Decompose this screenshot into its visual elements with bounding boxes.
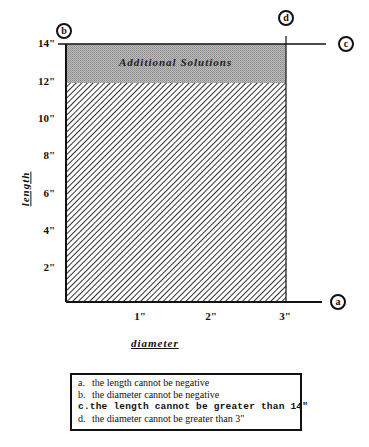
legend-key: d. (78, 413, 92, 425)
legend-item-d: d. the diameter cannot be greater than 3… (78, 413, 294, 425)
legend-key: a. (78, 377, 92, 389)
y-tick-12: 12" (25, 75, 55, 87)
y-tick-10: 10" (25, 112, 55, 124)
x-tick-2: 2" (196, 310, 226, 322)
legend-text: the length cannot be negative (92, 377, 209, 389)
legend-item-a: a. the length cannot be negative (78, 377, 294, 389)
legend-text: the diameter cannot be greater than 3" (92, 413, 244, 425)
y-tick-2: 2" (25, 261, 55, 273)
legend-key: b. (78, 389, 92, 401)
legend-text: the diameter cannot be negative (92, 389, 219, 401)
marker-c: c (338, 36, 354, 52)
additional-solutions-label: Additional Solutions (119, 56, 232, 68)
constraints-legend: a. the length cannot be negative b. the … (70, 373, 302, 431)
y-tick-4: 4" (25, 224, 55, 236)
legend-text: the length cannot be greater than 14" (90, 401, 308, 413)
marker-b: b (56, 23, 72, 39)
x-axis-title: diameter (131, 337, 179, 349)
y-tick-8: 8" (25, 149, 55, 161)
y-tick-14: 14" (25, 37, 55, 49)
marker-a: a (330, 294, 346, 310)
legend-item-b: b. the diameter cannot be negative (78, 389, 294, 401)
legend-key: c. (78, 401, 90, 413)
y-axis-title: length (19, 172, 31, 207)
marker-d: d (278, 10, 294, 26)
legend-item-c: c. the length cannot be greater than 14" (78, 401, 294, 413)
x-tick-1: 1" (125, 310, 155, 322)
x-tick-3: 3" (270, 310, 300, 322)
feasible-region (66, 83, 286, 302)
